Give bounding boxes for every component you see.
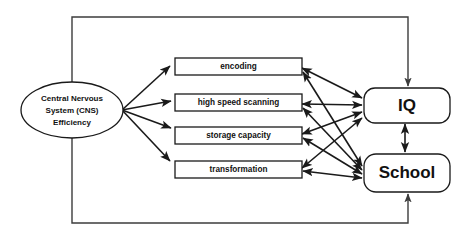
edge-transformation-school — [303, 171, 362, 178]
frame-path-cns-to-iq — [72, 17, 408, 86]
edge-cns-to-storage-capacity — [122, 110, 171, 128]
storage-capacity-label: storage capacity — [206, 131, 271, 140]
node-school[interactable]: School — [364, 154, 450, 192]
node-high-speed-scanning[interactable]: high speed scanning — [175, 94, 302, 111]
cns-label-line-3: Efficiency — [53, 118, 91, 127]
iq-label: IQ — [398, 96, 416, 115]
path-model-diagram: Central Nervous System (CNS) Efficiency … — [0, 0, 463, 236]
edge-cns-to-transformation — [122, 110, 170, 161]
encoding-label: encoding — [220, 62, 256, 71]
high-speed-scanning-label: high speed scanning — [198, 98, 279, 107]
frame-path-cns-to-school — [72, 137, 408, 223]
node-transformation[interactable]: transformation — [175, 161, 302, 178]
diagram-canvas: Central Nervous System (CNS) Efficiency … — [0, 0, 463, 236]
transformation-label: transformation — [210, 165, 268, 174]
cns-label-line-1: Central Nervous — [41, 94, 103, 103]
edge-encoding-school — [303, 72, 362, 166]
edge-cns-to-encoding — [122, 66, 170, 110]
node-iq[interactable]: IQ — [364, 88, 450, 123]
node-cns[interactable]: Central Nervous System (CNS) Efficiency — [21, 82, 123, 138]
cns-label-line-2: System (CNS) — [46, 106, 99, 115]
node-storage-capacity[interactable]: storage capacity — [175, 127, 302, 144]
edge-encoding-iq — [302, 68, 362, 98]
edge-high-speed-scanning-iq — [302, 104, 362, 105]
node-encoding[interactable]: encoding — [175, 58, 302, 75]
school-label: School — [379, 163, 436, 182]
